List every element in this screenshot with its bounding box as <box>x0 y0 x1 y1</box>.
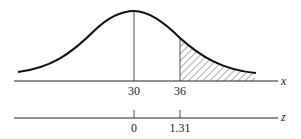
bell-curve <box>18 11 256 73</box>
x-axis-label: x <box>280 74 287 88</box>
x-tick-30: 30 <box>128 84 140 98</box>
z-tick-131: 1.31 <box>170 121 191 135</box>
x-tick-36: 36 <box>174 84 186 98</box>
z-axis-label: z <box>280 110 286 124</box>
z-tick-0: 0 <box>131 121 137 135</box>
shaded-tail-region <box>180 38 255 81</box>
normal-curve-diagram: x 30 36 z 0 1.31 <box>0 0 301 139</box>
